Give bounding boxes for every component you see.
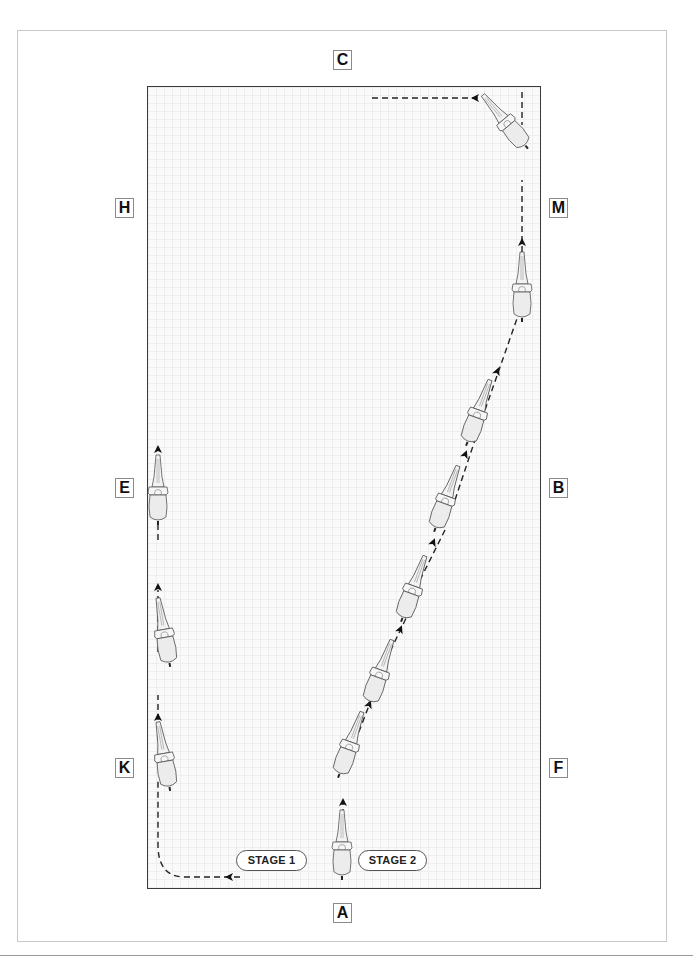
movement-overlay: [0, 0, 693, 965]
